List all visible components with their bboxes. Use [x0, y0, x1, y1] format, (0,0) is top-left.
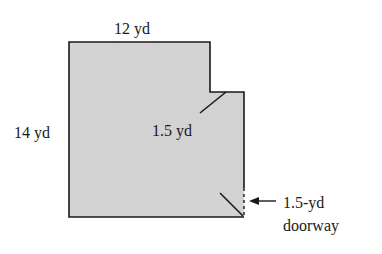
label-top-width: 12 yd [114, 20, 150, 38]
label-doorway-line2: doorway [283, 217, 339, 235]
doorway-arrow-head-icon [249, 197, 259, 205]
floor-plan-diagram: 12 yd 14 yd 1.5 yd 1.5-yd doorway [0, 0, 382, 254]
label-left-height: 14 yd [14, 124, 50, 142]
label-doorway-line1: 1.5-yd [283, 194, 324, 212]
label-diagonal: 1.5 yd [152, 122, 192, 140]
